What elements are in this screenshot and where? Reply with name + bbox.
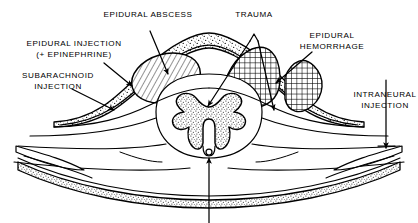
- trauma-leader-apex: [250, 34, 258, 41]
- label-epidural-hemorrhage: EPIDURAL HEMORRHAGE: [300, 31, 364, 52]
- central-canal: [206, 149, 212, 155]
- spinal-cord-cross-section-figure: EPIDURAL ABSCESS EPIDURAL INJECTION (+ E…: [0, 0, 418, 223]
- label-subarachnoid-injection: SUBARACHNOID INJECTION: [22, 71, 94, 92]
- label-trauma: TRAUMA: [235, 10, 272, 21]
- arrow-epidural-injection: [104, 63, 132, 86]
- label-intraneural-injection: INTRANEURAL INJECTION: [353, 90, 416, 111]
- label-epidural-abscess: EPIDURAL ABSCESS: [103, 10, 192, 21]
- label-epidural-injection: EPIDURAL INJECTION (+ EPINEPHRINE): [26, 39, 121, 60]
